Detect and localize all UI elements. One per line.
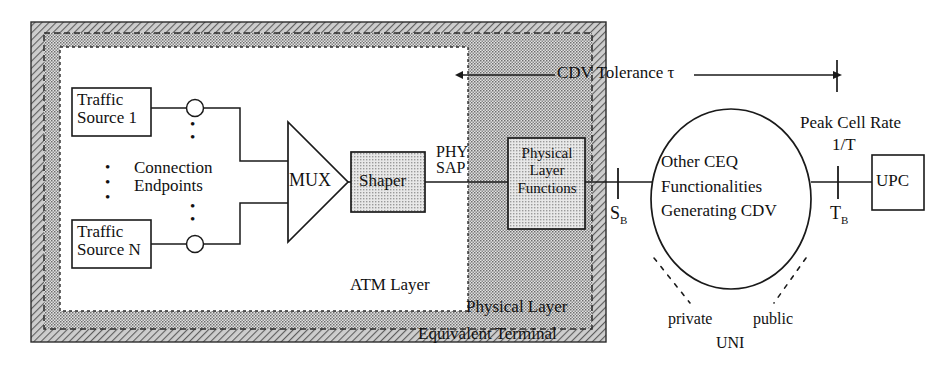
ellipse-line1: Other CEQ [661, 150, 777, 175]
uni-label: UNI [716, 334, 744, 351]
physical-layer-label: Physical Layer [466, 298, 568, 316]
tb-sub: B [841, 214, 848, 226]
dot: • [105, 175, 110, 190]
traffic-source-1-line1: Traffic [77, 91, 137, 109]
equivalent-terminal-label: Equivalent Terminal [418, 325, 557, 343]
ellipse-line3: Generating CDV [661, 199, 777, 224]
peak-cell-rate-value: 1/T [832, 136, 856, 154]
phy-sap-line2: SAP [436, 160, 468, 176]
endpoint-dots-upper: • • [190, 118, 195, 144]
tb-marker-label: TB [830, 204, 848, 226]
traffic-source-n-label: Traffic Source N [77, 223, 141, 260]
peak-cell-rate-label: Peak Cell Rate [800, 114, 901, 132]
public-label: public [753, 310, 793, 327]
private-label: private [668, 310, 712, 327]
dot: • [190, 213, 195, 226]
source-dots-column: • • • [105, 160, 110, 205]
connection-endpoints-label: Connection Endpoints [134, 159, 212, 196]
dot: • [105, 160, 110, 175]
tb-link [811, 166, 872, 199]
ellipse-line2: Functionalities [661, 175, 777, 200]
traffic-source-n-line1: Traffic [77, 223, 141, 241]
dot: • [190, 131, 195, 144]
endpoint-dots-lower: • • [190, 200, 195, 226]
sb-marker-label: SB [610, 204, 627, 226]
plf-line1: Physical [512, 145, 582, 162]
plf-line2: Layer [512, 162, 582, 179]
connection-endpoints-line2: Endpoints [134, 177, 212, 195]
sb-sub: B [620, 214, 627, 226]
ceq-ellipse-label: Other CEQ Functionalities Generating CDV [661, 150, 777, 224]
atm-layer-label: ATM Layer [350, 276, 430, 294]
traffic-source-1-label: Traffic Source 1 [77, 91, 137, 128]
cdv-tolerance-label: CDV Tolerance τ [557, 64, 674, 82]
shaper-label: Shaper [359, 172, 406, 190]
tb-base: T [830, 203, 841, 223]
diagram-canvas: Traffic Source 1 Traffic Source N • • • … [0, 0, 939, 382]
upc-label: UPC [876, 172, 909, 190]
connection-endpoints-line1: Connection [134, 159, 212, 177]
phy-sap-label: PHY SAP [436, 144, 468, 176]
dot: • [105, 190, 110, 205]
physical-layer-functions-label: Physical Layer Functions [512, 145, 582, 197]
traffic-source-1-line2: Source 1 [77, 109, 137, 127]
plf-line3: Functions [512, 180, 582, 197]
traffic-source-n-line2: Source N [77, 241, 141, 259]
sb-base: S [610, 203, 620, 223]
phy-sap-line1: PHY [436, 144, 468, 160]
mux-label: MUX [289, 171, 331, 190]
